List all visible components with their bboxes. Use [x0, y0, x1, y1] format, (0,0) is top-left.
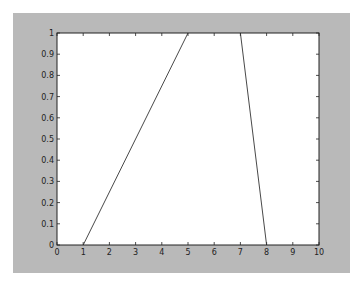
- y-tick-label: 0.2: [41, 199, 54, 208]
- y-tick-label: 0.8: [41, 71, 54, 80]
- x-axis-tick-labels: 012345678910: [54, 248, 324, 257]
- y-tick-label: 0.5: [41, 135, 54, 144]
- x-tick-label: 3: [133, 248, 138, 257]
- x-tick-label: 4: [159, 248, 164, 257]
- y-tick-label: 0.6: [41, 114, 54, 123]
- x-tick-label: 5: [185, 248, 190, 257]
- y-tick-label: 0: [49, 241, 54, 250]
- line-chart: 012345678910 00.10.20.30.40.50.60.70.80.…: [0, 0, 360, 287]
- x-tick-label: 0: [54, 248, 59, 257]
- x-tick-label: 2: [107, 248, 112, 257]
- x-tick-label: 6: [212, 248, 217, 257]
- y-tick-label: 1: [49, 29, 54, 38]
- x-tick-label: 8: [264, 248, 269, 257]
- y-tick-label: 0.3: [41, 177, 54, 186]
- x-tick-label: 7: [238, 248, 243, 257]
- axes-area: [57, 33, 319, 245]
- y-tick-label: 0.9: [41, 50, 54, 59]
- y-tick-label: 0.1: [41, 220, 54, 229]
- y-axis-tick-labels: 00.10.20.30.40.50.60.70.80.91: [41, 29, 54, 250]
- x-tick-label: 9: [290, 248, 295, 257]
- y-tick-label: 0.4: [41, 156, 54, 165]
- x-tick-label: 1: [81, 248, 86, 257]
- x-tick-label: 10: [314, 248, 324, 257]
- y-tick-label: 0.7: [41, 93, 54, 102]
